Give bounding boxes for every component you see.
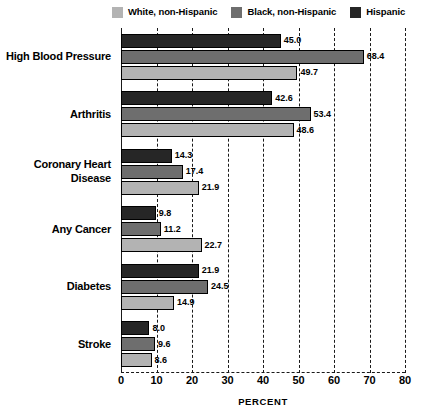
bar-value-label: 21.9 [202, 183, 220, 192]
category-label-line: Coronary Heart [34, 158, 111, 171]
bar [121, 165, 183, 179]
legend-item-label: White, non-Hispanic [128, 7, 217, 17]
bar [121, 66, 297, 80]
category-label: Diabetes [0, 258, 116, 316]
bar-value-label: 14.3 [175, 151, 193, 160]
bar-group: 45.068.449.7 [121, 28, 405, 86]
category-label-line: High Blood Pressure [6, 50, 111, 63]
x-tick-label: 30 [221, 375, 233, 386]
bar-row: 48.6 [121, 123, 405, 137]
x-tick-label: 60 [328, 375, 340, 386]
bar-value-label: 48.6 [297, 126, 315, 135]
bar [121, 337, 155, 351]
bar-row: 49.7 [121, 66, 405, 80]
bar-row: 53.4 [121, 107, 405, 121]
x-tick-label: 40 [257, 375, 269, 386]
category-label-line: Arthritis [70, 108, 111, 121]
legend-item: Black, non-Hispanic [231, 7, 336, 18]
bar-row: 9.8 [121, 206, 405, 220]
x-axis-ticks: 01020304050607080 [121, 375, 405, 391]
bar-row: 24.5 [121, 280, 405, 294]
bar-value-label: 53.4 [314, 110, 332, 119]
bar-value-label: 17.4 [186, 167, 204, 176]
legend-item: Hispanic [350, 7, 405, 18]
gridline [405, 28, 406, 373]
bar [121, 321, 149, 335]
x-tick-label: 10 [150, 375, 162, 386]
bar-row: 68.4 [121, 50, 405, 64]
legend-swatch-icon [231, 7, 242, 18]
bar-groups: 45.068.449.742.653.448.614.317.421.99.81… [121, 28, 405, 373]
category-label: Any Cancer [0, 201, 116, 259]
legend-swatch-icon [350, 7, 361, 18]
bar-value-label: 22.7 [205, 241, 223, 250]
bar-group: 14.317.421.9 [121, 143, 405, 201]
bar [121, 91, 272, 105]
bar-row: 14.3 [121, 149, 405, 163]
bar [121, 353, 152, 367]
bar-group: 21.924.514.9 [121, 258, 405, 316]
bar-value-label: 14.9 [177, 298, 195, 307]
bar-group: 42.653.448.6 [121, 86, 405, 144]
bar-value-label: 42.6 [275, 94, 293, 103]
bar-value-label: 24.5 [211, 282, 229, 291]
bar-value-label: 49.7 [300, 68, 318, 77]
bar [121, 107, 311, 121]
bar-value-label: 45.0 [284, 36, 302, 45]
x-tick-label: 20 [186, 375, 198, 386]
category-label: Stroke [0, 316, 116, 374]
plot-area: 45.068.449.742.653.448.614.317.421.99.81… [121, 28, 405, 373]
category-label: Arthritis [0, 86, 116, 144]
x-tick-label: 80 [399, 375, 411, 386]
bar-value-label: 9.6 [158, 340, 171, 349]
chart-legend: White, non-HispanicBlack, non-HispanicHi… [112, 4, 417, 20]
bar-row: 21.9 [121, 264, 405, 278]
bar-group: 8.09.68.6 [121, 316, 405, 374]
category-label-line: Stroke [78, 338, 111, 351]
bar-row: 14.9 [121, 296, 405, 310]
bar-value-label: 9.8 [159, 209, 172, 218]
bar-row: 22.7 [121, 238, 405, 252]
bar [121, 206, 156, 220]
bar-row: 42.6 [121, 91, 405, 105]
bar [121, 264, 199, 278]
bar-value-label: 8.0 [152, 324, 165, 333]
bar-row: 8.6 [121, 353, 405, 367]
bar [121, 238, 202, 252]
bar-row: 21.9 [121, 181, 405, 195]
bar-row: 45.0 [121, 34, 405, 48]
bar-value-label: 21.9 [202, 266, 220, 275]
category-label: Coronary HeartDisease [0, 143, 116, 201]
bar-value-label: 11.2 [164, 225, 181, 234]
category-label-line: Any Cancer [52, 223, 111, 236]
bar-value-label: 68.4 [367, 52, 385, 61]
category-axis-labels: High Blood PressureArthritisCoronary Hea… [0, 28, 116, 373]
legend-item-label: Black, non-Hispanic [247, 7, 336, 17]
bar-value-label: 8.6 [155, 356, 168, 365]
bar [121, 123, 294, 137]
bar-row: 8.0 [121, 321, 405, 335]
bar [121, 149, 172, 163]
category-label-line: Diabetes [67, 280, 111, 293]
legend-item-label: Hispanic [366, 7, 405, 17]
bar-row: 11.2 [121, 222, 405, 236]
bar-group: 9.811.222.7 [121, 201, 405, 259]
bar [121, 222, 161, 236]
bar-row: 17.4 [121, 165, 405, 179]
x-axis-title: PERCENT [121, 396, 405, 407]
bar [121, 181, 199, 195]
category-label-line: Disease [71, 172, 111, 185]
bar [121, 296, 174, 310]
x-tick-label: 70 [363, 375, 375, 386]
bar [121, 50, 364, 64]
category-label: High Blood Pressure [0, 28, 116, 86]
x-tick-label: 0 [118, 375, 124, 386]
legend-swatch-icon [112, 7, 123, 18]
bar-row: 9.6 [121, 337, 405, 351]
x-tick-label: 50 [292, 375, 304, 386]
legend-item: White, non-Hispanic [112, 7, 217, 18]
axis-baseline [121, 372, 405, 373]
bar [121, 34, 281, 48]
bar [121, 280, 208, 294]
